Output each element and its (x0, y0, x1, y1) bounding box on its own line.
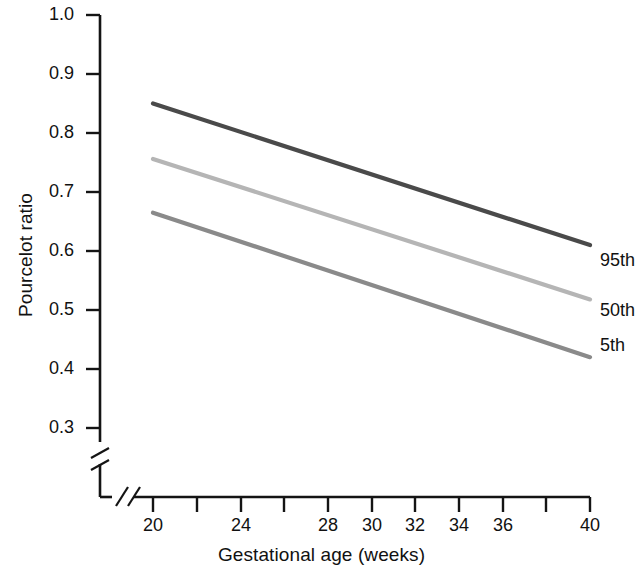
y-tick-label-0.4: 0.4 (14, 358, 74, 379)
x-axis-break-slash-left (116, 487, 128, 506)
series-line-5th (153, 213, 590, 358)
x-tick-label-32: 32 (393, 515, 437, 536)
y-tick-label-0.3: 0.3 (14, 417, 74, 438)
x-tick-label-28: 28 (306, 515, 350, 536)
x-axis-title: Gestational age (weeks) (0, 544, 643, 566)
x-tick-label-20: 20 (131, 515, 175, 536)
y-axis (86, 15, 109, 497)
y-tick-label-0.8: 0.8 (14, 122, 74, 143)
chart-canvas (0, 0, 643, 576)
y-tick-label-0.9: 0.9 (14, 63, 74, 84)
x-axis (100, 487, 590, 512)
series-label-5th: 5th (600, 335, 625, 356)
x-tick-label-36: 36 (481, 515, 525, 536)
y-tick-label-1.0: 1.0 (14, 4, 74, 25)
x-tick-label-34: 34 (437, 515, 481, 536)
series-line-95th (153, 104, 590, 246)
x-tick-label-30: 30 (350, 515, 394, 536)
series-line-50th (153, 159, 590, 299)
series-label-50th: 50th (600, 300, 635, 321)
chart-container: 1.0 0.9 0.8 0.7 0.6 0.5 0.4 0.3 20 24 28… (0, 0, 643, 576)
y-axis-break-slash-upper (91, 448, 109, 458)
series-label-95th: 95th (600, 250, 635, 271)
x-tick-label-40: 40 (568, 515, 612, 536)
y-axis-title: Pourcelot ratio (15, 165, 37, 345)
x-tick-label-24: 24 (219, 515, 263, 536)
